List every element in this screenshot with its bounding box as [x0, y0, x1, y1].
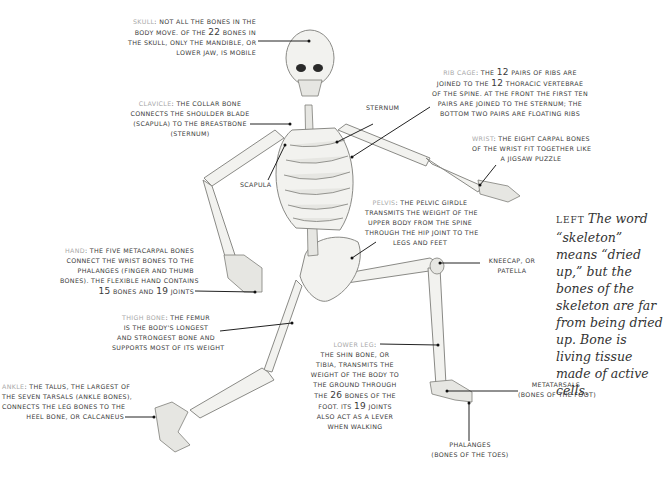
hand-left	[224, 255, 262, 292]
label-lower-leg: Lower leg: the shin bone, or tibia, tran…	[310, 340, 400, 432]
label-kneecap: Kneecap, or patella	[482, 256, 542, 276]
patella	[430, 258, 444, 274]
rib-cage	[276, 128, 353, 230]
label-heading: Skull	[133, 18, 154, 25]
hand-right	[478, 180, 520, 202]
label-thigh-bone: Thigh bone: the femur is the body's long…	[112, 313, 220, 353]
left-arm	[203, 130, 284, 292]
label-wrist: Wrist: the eight carpal bones of the wri…	[472, 134, 590, 164]
label-hand: Hand: the five metacarpal bones connect …	[60, 246, 194, 297]
label-sternum: Sternum	[366, 103, 399, 113]
label-skull: Skull: not all the bones in the body mov…	[128, 17, 256, 58]
humerus-right	[338, 124, 430, 166]
femur-left	[264, 280, 302, 372]
tibia-right	[428, 268, 446, 386]
foot-left	[155, 402, 190, 452]
label-ankle: Ankle: the talus, the largest of the sev…	[2, 382, 124, 422]
label-scapula: Scapula	[240, 180, 272, 190]
forearm-left	[203, 180, 236, 260]
left-leg	[155, 280, 302, 452]
caption-text: The word “skeleton” means “dried up,” bu…	[556, 211, 663, 398]
caption-keyword: Left	[556, 215, 585, 225]
label-pelvis: Pelvis: the pelvic girdle transmits the …	[365, 198, 475, 248]
label-clavicle: Clavicle: the collar bone connects the s…	[130, 99, 250, 139]
caption: LeftThe word “skeleton” means “dried up,…	[556, 210, 663, 399]
tibia-left	[190, 368, 274, 418]
label-phalanges: Phalanges (bones of the toes)	[430, 440, 510, 460]
label-rib-cage: Rib cage: the 12 pairs of ribs are joine…	[430, 67, 590, 119]
